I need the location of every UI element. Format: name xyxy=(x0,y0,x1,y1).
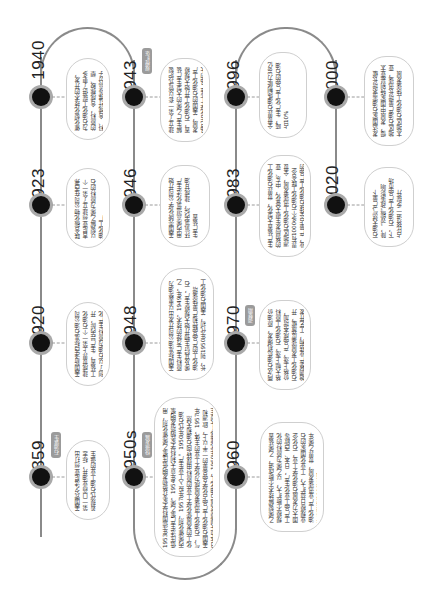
timeline-dot-1970 xyxy=(227,334,245,352)
timeline-dot-1920 xyxy=(32,334,50,352)
event-badge-1859: 石油诞生 xyxy=(51,432,61,458)
event-text-1996: 全世界石油炼制能力38亿吨，生产化工产品的石油占10% xyxy=(266,61,300,129)
timeline-dot-1996 xyxy=(227,88,245,106)
event-badge-1950s: 快速发展 xyxy=(142,432,152,458)
event-card-1920: 美国新泽西标准石油公司建成世界上第一个石油化工装置，生产异丙醇，开创了以石油为原… xyxy=(66,302,110,386)
event-card-1946: 美国壳牌化学公司开始用丙烯高温氯化法生产环氧氯丙烷，建成甘油生产装置 xyxy=(160,165,210,247)
event-text-2000: 发达国家石油需求增长缓慢，发展中国家特别是亚太地区石油产量增长迅速，亚太地区石油… xyxy=(371,65,407,137)
timeline-dot-1943 xyxy=(125,88,143,106)
event-card-1859: 美国宾夕法尼亚州打出第一口商业油井，标志着现代石油工业的诞生 xyxy=(66,440,110,520)
event-card-1950s: 1953年德国科学家齐格勒发明低压聚乙烯催化剂，用低压法生产聚乙烯，1954年意… xyxy=(154,397,220,557)
event-card-1960: 乙烯裂解技术不断改进，乙烯装置规模不断扩大，以乙烯为原料的化工产品工业化生产，日… xyxy=(260,422,324,532)
event-card-2000: 发达国家石油需求增长缓慢，发展中国家特别是亚太地区石油产量增长迅速，亚太地区石油… xyxy=(364,56,414,146)
event-card-2020: 石油天然气产量下降，“双碳”政策影响下，石油化工产品市场占比将进一步提升 xyxy=(364,167,414,247)
event-card-1996: 全世界石油炼制能力38亿吨，生产化工产品的石油占10% xyxy=(259,52,307,138)
event-badge-1943: 规模扩张 xyxy=(142,48,152,74)
timeline-dot-1940 xyxy=(32,88,50,106)
event-text-1859: 美国宾夕法尼亚州打出第一口商业油井，标志着现代石油工业的诞生 xyxy=(73,449,103,511)
timeline-dot-1983 xyxy=(227,196,245,214)
timeline-dot-1960 xyxy=(227,468,245,486)
timeline-dot-2000 xyxy=(327,88,345,106)
event-text-1948: 美国标准油公司开发出以重整油为原料生产芳烃的技术，1949年，乙烯及其衍生物开始… xyxy=(167,277,207,371)
timeline-dot-1948 xyxy=(125,334,143,352)
event-card-1923: 联合碳化物公司在西弗吉尼亚州建立了第一个以裂解乙烯为原料的石油化工厂 xyxy=(66,168,110,248)
year-label-1940: 1940 xyxy=(29,40,49,80)
timeline-dot-1923 xyxy=(32,196,50,214)
event-text-1970: 两次石油危机爆发，原油价格大幅上涨，石油化工原料价格上涨，产品成本增加，石油化工… xyxy=(266,309,304,381)
timeline-dot-1859 xyxy=(32,468,50,486)
event-card-1983: 生产装置大型化，世界石油化工的格局发生很大变化，中东、亚洲地区石油化工迅速发展，… xyxy=(259,155,311,257)
event-card-1970: 两次石油危机爆发，原油价格大幅上涨，石油化工原料价格上涨，产品成本增加，石油化工… xyxy=(259,300,311,390)
event-card-1940: 催化裂化技术的开发，为石油化工提供了更多的原料，合成橡胶、塑料、合成纤维等高分子… xyxy=(66,58,110,140)
timeline-dot-1946 xyxy=(125,196,143,214)
timeline-dot-1950s xyxy=(125,468,143,486)
event-card-1943: 建立了第一套以管式炉裂解生产乙烯的大型生产装置，石油化工开始大规模发展，美国的石… xyxy=(160,58,210,142)
event-text-1946: 美国壳牌化学公司开始用丙烯高温氯化法生产环氧氯丙烷，建成甘油生产装置 xyxy=(167,174,203,238)
event-text-1940: 催化裂化技术的开发，为石油化工提供了更多的原料，合成橡胶、塑料、合成纤维等高分子… xyxy=(73,67,103,131)
event-text-2020: 石油天然气产量下降，“双碳”政策影响下，石油化工产品市场占比将进一步提升 xyxy=(371,176,407,238)
event-text-1943: 建立了第一套以管式炉裂解生产乙烯的大型生产装置，石油化工开始大规模发展，美国的石… xyxy=(167,67,203,133)
timeline-dot-2020 xyxy=(327,196,345,214)
event-text-1923: 联合碳化物公司在西弗吉尼亚州建立了第一个以裂解乙烯为原料的石油化工厂 xyxy=(73,177,103,239)
event-text-1920: 美国新泽西标准石油公司建成世界上第一个石油化工装置，生产异丙醇，开创了以石油为原… xyxy=(73,311,103,377)
event-card-1948: 美国标准油公司开发出以重整油为原料生产芳烃的技术，1949年，乙烯及其衍生物开始… xyxy=(160,268,214,380)
event-text-1950s: 1953年德国科学家齐格勒发明低压聚乙烯催化剂，用低压法生产聚乙烯，1954年意… xyxy=(161,406,213,548)
event-text-1983: 生产装置大型化，世界石油化工的格局发生很大变化，中东、亚洲地区石油化工迅速发展，… xyxy=(266,164,304,248)
event-text-1960: 乙烯裂解技术不断改进，乙烯装置规模不断扩大，以乙烯为原料的化工产品工业化生产，日… xyxy=(267,431,317,523)
event-badge-1970: 调整期 xyxy=(245,305,255,326)
